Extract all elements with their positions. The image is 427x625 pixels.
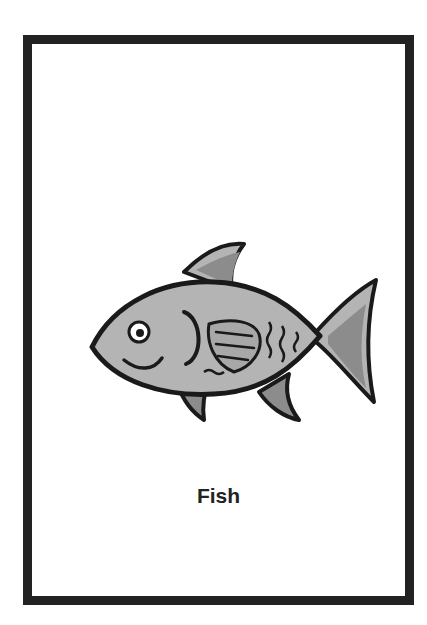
flashcard: Fish	[23, 35, 414, 605]
fish-illustration	[84, 232, 384, 432]
card-label: Fish	[32, 484, 405, 508]
